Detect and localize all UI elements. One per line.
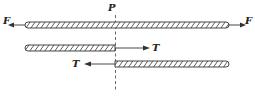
top-rod [25,22,229,28]
tension-right-label: T [152,42,161,53]
tension-left-label: T [72,58,81,69]
free-body-diagram: P F F T T [0,0,255,102]
force-left-arrow [8,23,25,28]
force-left-label: F [2,15,11,26]
section-label: P [107,2,116,13]
middle-rod [25,45,115,51]
bottom-rod [115,61,229,67]
tension-left-arrow [84,62,115,67]
force-right-arrow [229,23,246,28]
force-right-label: F [244,15,253,26]
tension-right-arrow [115,46,150,51]
